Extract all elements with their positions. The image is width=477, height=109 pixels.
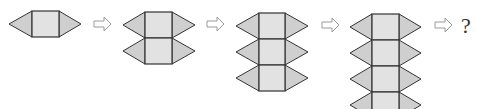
left-triangle <box>350 40 372 66</box>
right-triangle <box>172 38 195 64</box>
right-arrow-icon <box>435 18 452 32</box>
left-triangle <box>9 11 32 37</box>
square <box>32 11 59 37</box>
square <box>259 39 285 65</box>
right-arrow-icon <box>94 17 111 31</box>
figure-step-1 <box>9 11 81 37</box>
figure-step-4 <box>350 14 421 109</box>
pattern-sequence-diagram: ? <box>0 0 477 109</box>
left-triangle <box>123 38 145 64</box>
square <box>145 12 172 38</box>
right-triangle <box>399 14 421 40</box>
left-triangle <box>350 66 372 92</box>
left-triangle <box>236 39 259 65</box>
right-triangle <box>59 11 81 37</box>
figure-step-2 <box>123 12 195 64</box>
left-triangle <box>236 65 259 91</box>
right-triangle <box>285 13 308 39</box>
question-mark: ? <box>461 13 471 38</box>
right-triangle <box>172 12 195 38</box>
right-triangle <box>285 65 308 91</box>
figure-step-3 <box>236 13 308 91</box>
square <box>259 13 285 39</box>
square <box>372 92 399 109</box>
left-triangle <box>350 14 372 40</box>
right-arrow-icon <box>207 17 224 31</box>
right-arrow-icon <box>322 18 339 32</box>
right-triangle <box>399 40 421 66</box>
left-triangle <box>350 92 372 109</box>
square <box>372 40 399 66</box>
left-triangle <box>123 12 145 38</box>
square <box>259 65 285 91</box>
right-triangle <box>285 39 308 65</box>
right-triangle <box>399 66 421 92</box>
square <box>372 66 399 92</box>
left-triangle <box>236 13 259 39</box>
square <box>145 38 172 64</box>
square <box>372 14 399 40</box>
right-triangle <box>399 92 421 109</box>
